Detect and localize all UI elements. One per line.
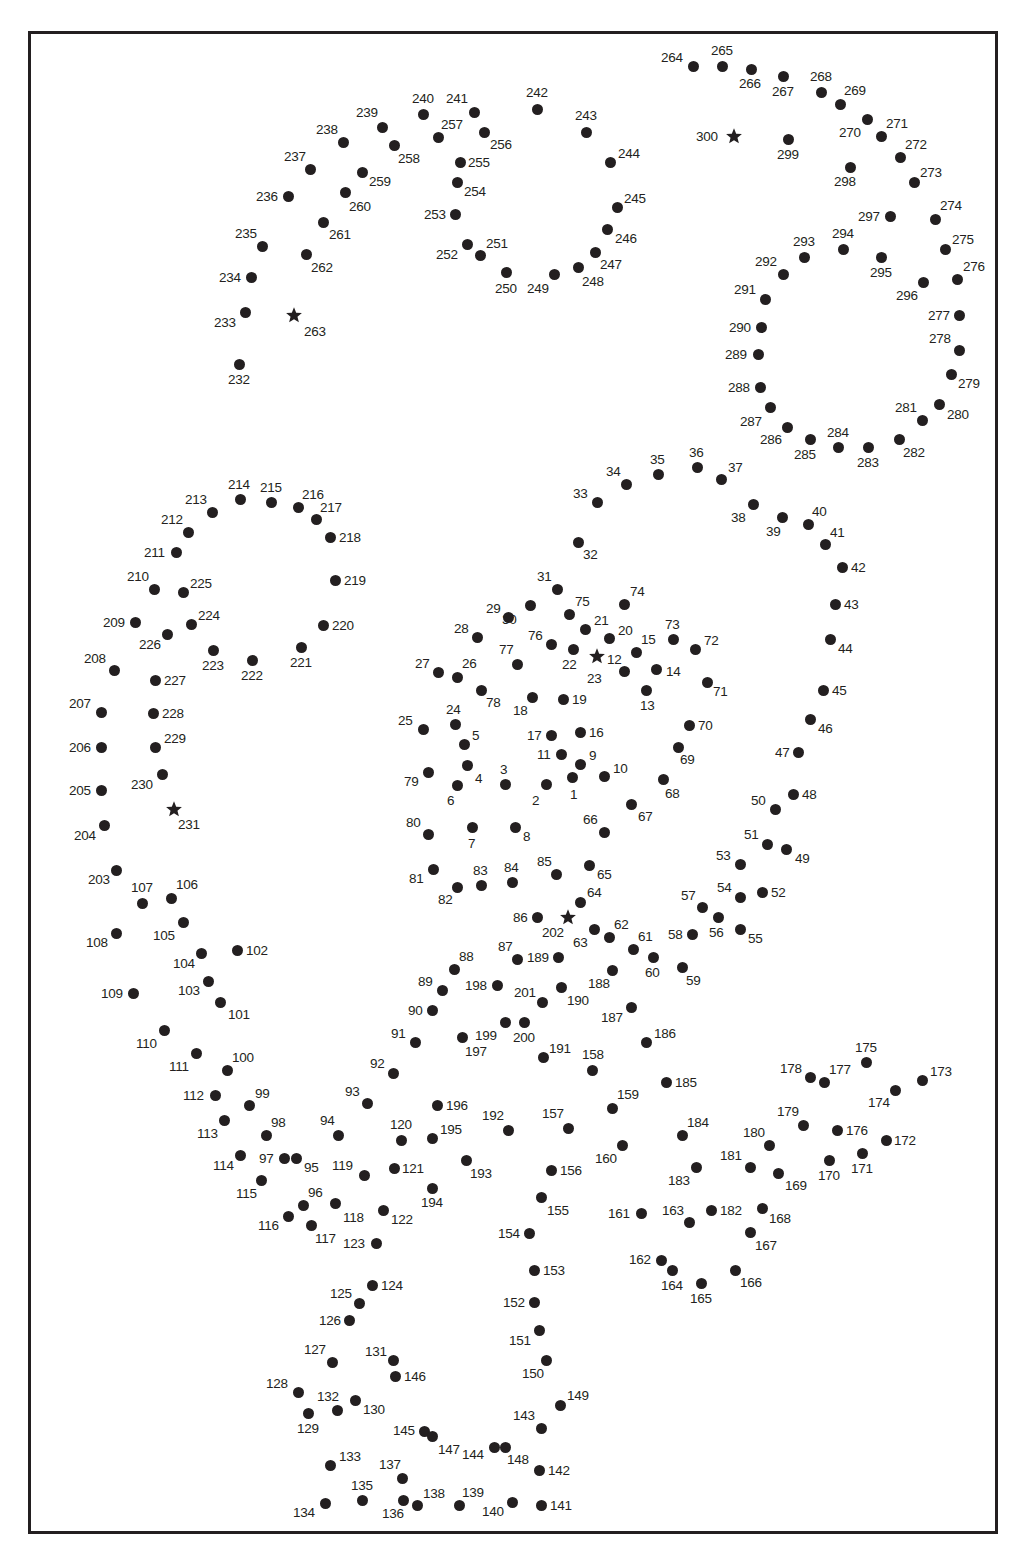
dot-point[interactable] (472, 632, 483, 643)
dot-point[interactable] (507, 1497, 518, 1508)
dot-point[interactable] (757, 1203, 768, 1214)
dot-point[interactable] (247, 655, 258, 666)
dot-point[interactable] (619, 599, 630, 610)
dot-point[interactable] (687, 929, 698, 940)
dot-point[interactable] (799, 252, 810, 263)
dot-point[interactable] (940, 244, 951, 255)
dot-point[interactable] (512, 659, 523, 670)
dot-point[interactable] (293, 502, 304, 513)
dot-point[interactable] (805, 714, 816, 725)
dot-point[interactable] (803, 519, 814, 530)
dot-point[interactable] (580, 624, 591, 635)
dot-point[interactable] (178, 917, 189, 928)
dot-point[interactable] (668, 634, 679, 645)
dot-point[interactable] (575, 727, 586, 738)
dot-point[interactable] (240, 307, 251, 318)
dot-point[interactable] (96, 742, 107, 753)
dot-point[interactable] (500, 1442, 511, 1453)
dot-point[interactable] (673, 742, 684, 753)
dot-point[interactable] (691, 1162, 702, 1173)
dot-point[interactable] (573, 262, 584, 273)
dot-point[interactable] (330, 575, 341, 586)
dot-point[interactable] (782, 422, 793, 433)
dot-point[interactable] (389, 140, 400, 151)
dot-point[interactable] (757, 887, 768, 898)
dot-point[interactable] (367, 1280, 378, 1291)
dot-point[interactable] (745, 1227, 756, 1238)
dot-point[interactable] (558, 694, 569, 705)
dot-point[interactable] (338, 137, 349, 148)
dot-point[interactable] (556, 982, 567, 993)
dot-point[interactable] (377, 122, 388, 133)
dot-point[interactable] (604, 633, 615, 644)
dot-point[interactable] (890, 1085, 901, 1096)
dot-point[interactable] (783, 134, 794, 145)
dot-point[interactable] (433, 132, 444, 143)
dot-point[interactable] (427, 1133, 438, 1144)
dot-point[interactable] (479, 127, 490, 138)
dot-point[interactable] (388, 1068, 399, 1079)
dot-point[interactable] (428, 864, 439, 875)
dot-point[interactable] (762, 839, 773, 850)
dot-point[interactable] (234, 359, 245, 370)
dot-point[interactable] (452, 177, 463, 188)
dot-point[interactable] (688, 61, 699, 72)
dot-point[interactable] (150, 675, 161, 686)
dot-point[interactable] (244, 1100, 255, 1111)
dot-point[interactable] (837, 562, 848, 573)
dot-point[interactable] (283, 1211, 294, 1222)
dot-point[interactable] (306, 1220, 317, 1231)
dot-point[interactable] (824, 1155, 835, 1166)
dot-point[interactable] (563, 1123, 574, 1134)
dot-point[interactable] (702, 677, 713, 688)
dot-point[interactable] (196, 948, 207, 959)
dot-point[interactable] (325, 1460, 336, 1471)
dot-point[interactable] (340, 187, 351, 198)
dot-point[interactable] (735, 892, 746, 903)
dot-point[interactable] (876, 252, 887, 263)
dot-point[interactable] (371, 1238, 382, 1249)
dot-point[interactable] (607, 965, 618, 976)
dot-point[interactable] (954, 310, 965, 321)
dot-point[interactable] (690, 644, 701, 655)
dot-point[interactable] (607, 1103, 618, 1114)
dot-point[interactable] (455, 157, 466, 168)
dot-point[interactable] (713, 912, 724, 923)
dot-point[interactable] (150, 742, 161, 753)
dot-point[interactable] (427, 1431, 438, 1442)
star-marker-icon[interactable] (588, 647, 606, 665)
dot-point[interactable] (412, 1500, 423, 1511)
dot-point[interactable] (423, 767, 434, 778)
dot-point[interactable] (934, 399, 945, 410)
dot-point[interactable] (793, 747, 804, 758)
dot-point[interactable] (862, 114, 873, 125)
dot-point[interactable] (612, 202, 623, 213)
dot-point[interactable] (599, 827, 610, 838)
dot-point[interactable] (318, 620, 329, 631)
dot-point[interactable] (537, 997, 548, 1008)
dot-point[interactable] (261, 1130, 272, 1141)
dot-point[interactable] (279, 1153, 290, 1164)
dot-point[interactable] (256, 1175, 267, 1186)
dot-point[interactable] (863, 442, 874, 453)
dot-point[interactable] (462, 760, 473, 771)
dot-point[interactable] (764, 1140, 775, 1151)
dot-point[interactable] (311, 514, 322, 525)
dot-point[interactable] (832, 1125, 843, 1136)
dot-point[interactable] (677, 1130, 688, 1141)
dot-point[interactable] (954, 345, 965, 356)
dot-point[interactable] (437, 985, 448, 996)
dot-point[interactable] (350, 1395, 361, 1406)
dot-point[interactable] (626, 799, 637, 810)
dot-point[interactable] (489, 1442, 500, 1453)
dot-point[interactable] (183, 527, 194, 538)
dot-point[interactable] (157, 769, 168, 780)
dot-point[interactable] (894, 434, 905, 445)
dot-point[interactable] (357, 1495, 368, 1506)
dot-point[interactable] (536, 1192, 547, 1203)
dot-point[interactable] (581, 127, 592, 138)
dot-point[interactable] (96, 785, 107, 796)
dot-point[interactable] (536, 1500, 547, 1511)
dot-point[interactable] (148, 708, 159, 719)
dot-point[interactable] (357, 167, 368, 178)
